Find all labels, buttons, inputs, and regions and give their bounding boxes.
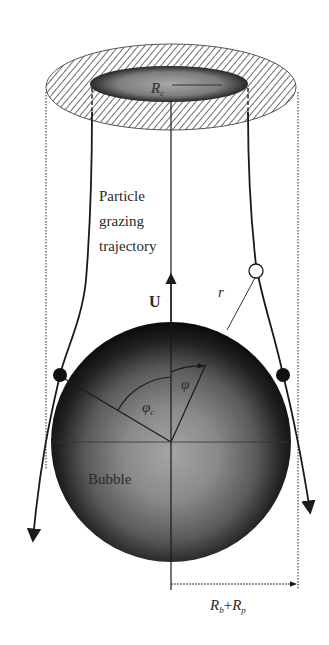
sum-radii-label: Rb+Rp	[209, 597, 246, 615]
polar-angle-label: φ	[181, 376, 189, 392]
particle-open	[249, 264, 263, 278]
collection-disk	[90, 66, 248, 102]
particle-left	[53, 368, 67, 382]
radial-distance-label: r	[218, 284, 224, 300]
trajectory-label-line1: Particle	[99, 188, 145, 204]
particle-right	[276, 368, 290, 382]
bubble-particle-collision-diagram: Rc Particle grazing trajectory U r φ φc …	[0, 0, 329, 645]
trajectory-label-line2: grazing	[99, 213, 144, 229]
radial-distance-line	[227, 276, 256, 330]
velocity-label: U	[149, 293, 161, 310]
bubble-label: Bubble	[88, 471, 132, 487]
trajectory-label-line3: trajectory	[99, 238, 157, 254]
